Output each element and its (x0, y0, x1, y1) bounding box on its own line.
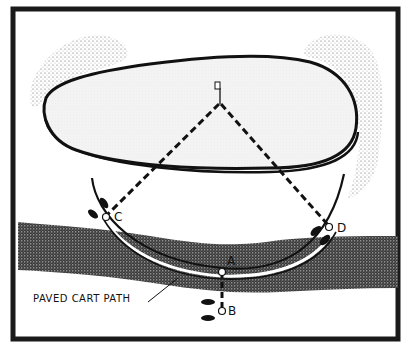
label-point-a: A (227, 255, 235, 267)
point-b-marker (219, 308, 226, 315)
label-point-c: C (114, 211, 122, 223)
label-point-d: D (337, 222, 346, 234)
point-a-marker (219, 269, 226, 276)
point-d-marker (326, 224, 333, 231)
point-c-marker (103, 214, 110, 221)
paved-cart-path-caption: PAVED CART PATH (33, 293, 131, 304)
label-point-b: B (228, 305, 236, 317)
